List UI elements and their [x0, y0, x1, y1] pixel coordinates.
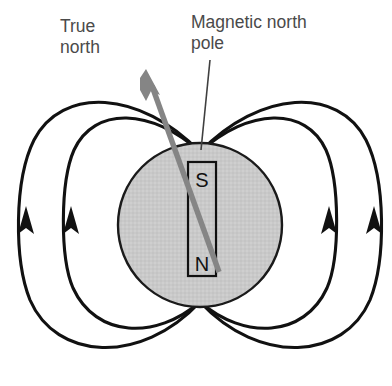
field-arrowhead-right-inner: [321, 206, 337, 234]
magnetic-field-diagram: S N True north Magnetic north pole: [0, 0, 392, 386]
magnetic-north-pole-label: Magnetic north pole: [191, 12, 307, 54]
bar-magnet-south-label: S: [195, 169, 208, 191]
diagram-canvas: S N: [0, 0, 392, 386]
field-arrowhead-right-outer: [366, 206, 382, 234]
bar-magnet-north-label: N: [195, 253, 209, 275]
magnetic-pole-leader-line: [201, 60, 210, 150]
field-arrowhead-left-inner: [63, 206, 79, 234]
true-north-label: True north: [60, 16, 100, 58]
field-arrowhead-left-outer: [18, 206, 34, 234]
